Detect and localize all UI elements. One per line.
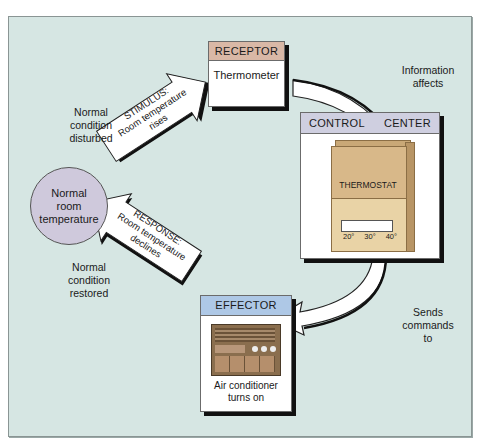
thermostat-dial[interactable] [341, 220, 393, 232]
normal-room-temperature-circle: Normal room temperature [30, 167, 108, 245]
control-center-box: CONTROL CENTER THERMOSTAT 20° 30° 40° [300, 112, 440, 259]
effector-body: Air conditioner turns on [201, 380, 291, 404]
thermostat-scale: 20° 30° 40° [343, 232, 397, 241]
control-center-header: CONTROL CENTER [301, 113, 439, 134]
receptor-header: RECEPTOR [209, 42, 284, 61]
thermostat-label: THERMOSTAT [331, 180, 405, 190]
receptor-body: Thermometer [209, 69, 284, 81]
air-conditioner-icon [211, 324, 281, 376]
thermostat-icon: THERMOSTAT 20° 30° 40° [331, 140, 409, 258]
receptor-box: RECEPTOR Thermometer [208, 41, 285, 107]
effector-header: EFFECTOR [201, 296, 291, 316]
sends-commands-to-label: Sends commands to [393, 306, 463, 345]
effector-box: EFFECTOR Air conditioner turns on [200, 295, 292, 412]
information-affects-label: Information affects [388, 64, 468, 90]
normal-condition-disturbed-label: Normal condition disturbed [56, 106, 126, 145]
normal-condition-restored-label: Normal condition restored [54, 261, 124, 300]
